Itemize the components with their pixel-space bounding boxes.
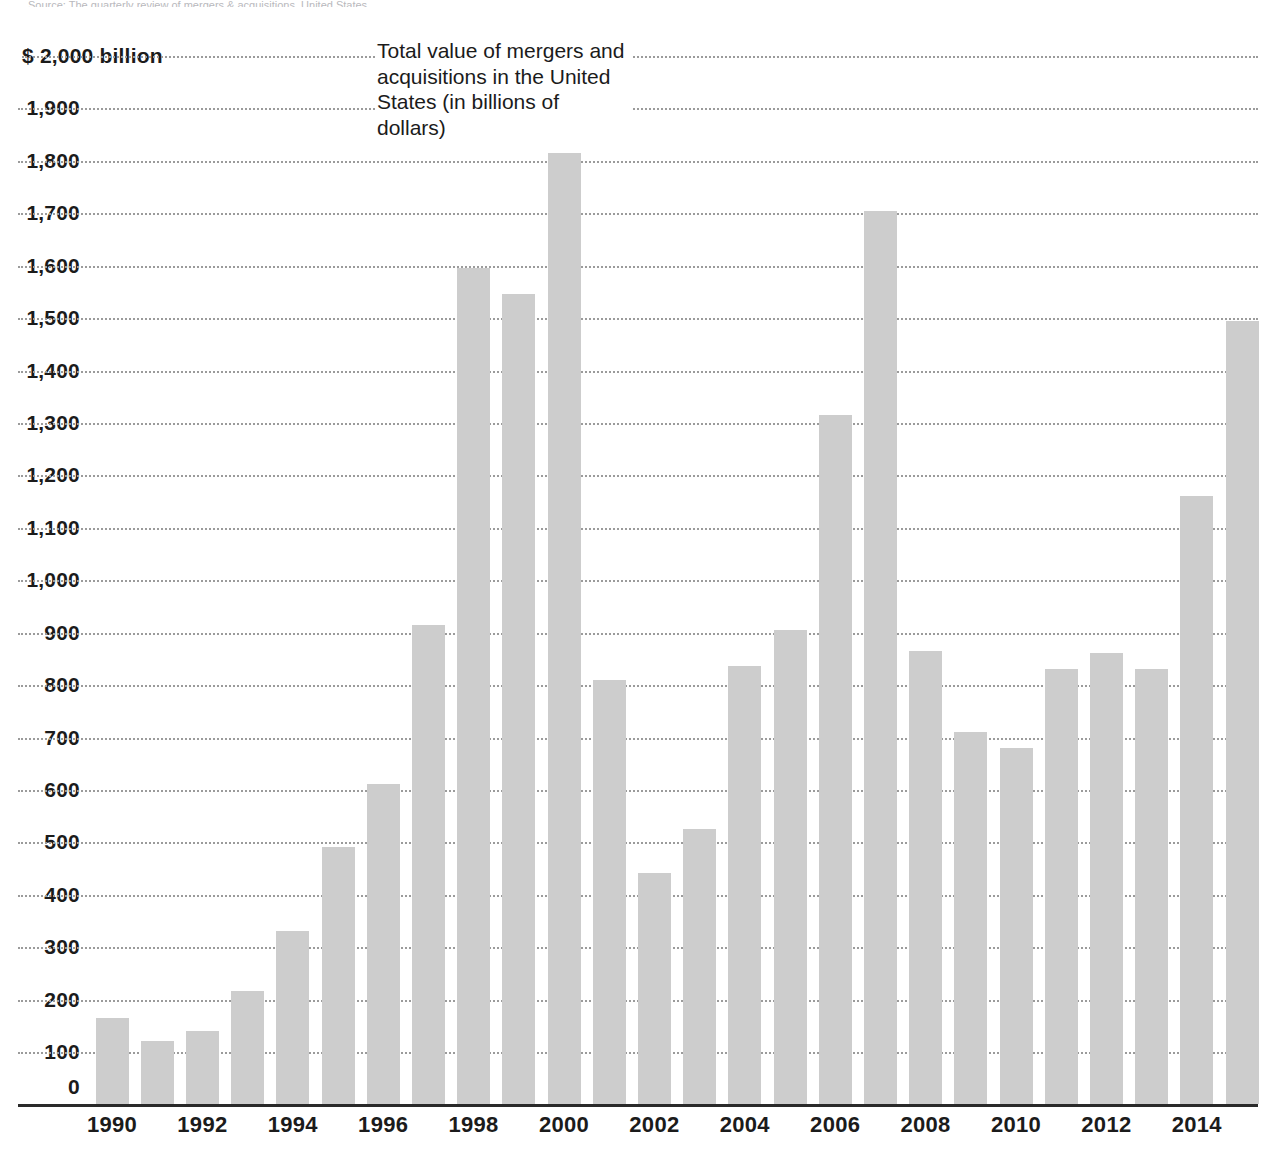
- bar-2003: [683, 829, 716, 1104]
- bar-chart: $ 2,000 billion 1,900 1,800 1,700 1,600 …: [0, 0, 1266, 1152]
- x-tick-label-2012: 2012: [1061, 1112, 1151, 1138]
- x-tick-label-2004: 2004: [700, 1112, 790, 1138]
- bar-2009: [954, 732, 987, 1104]
- bar-2011: [1045, 669, 1078, 1104]
- x-tick-label-2000: 2000: [519, 1112, 609, 1138]
- bar-1996: [367, 784, 400, 1104]
- bar-1999: [502, 294, 535, 1104]
- bar-2010: [1000, 748, 1033, 1104]
- bar-series: [0, 0, 1266, 1152]
- bar-2000: [548, 153, 581, 1104]
- chart-title: Total value of mergers and acquisitions …: [377, 36, 633, 144]
- bar-1998: [457, 268, 490, 1104]
- bar-2012: [1090, 653, 1123, 1104]
- bar-1992: [186, 1031, 219, 1104]
- x-tick-label-1998: 1998: [429, 1112, 519, 1138]
- bar-2015: [1226, 321, 1259, 1104]
- x-tick-label-2008: 2008: [881, 1112, 971, 1138]
- bar-2006: [819, 415, 852, 1104]
- x-tick-label-1996: 1996: [338, 1112, 428, 1138]
- bar-1993: [231, 991, 264, 1104]
- bar-1991: [141, 1041, 174, 1104]
- bar-1997: [412, 625, 445, 1104]
- bar-2007: [864, 211, 897, 1104]
- bar-2014: [1180, 496, 1213, 1104]
- bar-2008: [909, 651, 942, 1104]
- x-tick-label-1990: 1990: [67, 1112, 157, 1138]
- bar-1995: [322, 847, 355, 1104]
- bar-1994: [276, 931, 309, 1104]
- x-tick-label-2014: 2014: [1152, 1112, 1242, 1138]
- x-tick-label-1992: 1992: [157, 1112, 247, 1138]
- bar-1990: [96, 1018, 129, 1104]
- bar-2005: [774, 630, 807, 1104]
- x-tick-label-2010: 2010: [971, 1112, 1061, 1138]
- x-tick-label-2002: 2002: [609, 1112, 699, 1138]
- bar-2013: [1135, 669, 1168, 1104]
- x-tick-label-2006: 2006: [790, 1112, 880, 1138]
- bar-2001: [593, 680, 626, 1104]
- bar-2002: [638, 873, 671, 1104]
- x-tick-label-1994: 1994: [248, 1112, 338, 1138]
- bar-2004: [728, 666, 761, 1104]
